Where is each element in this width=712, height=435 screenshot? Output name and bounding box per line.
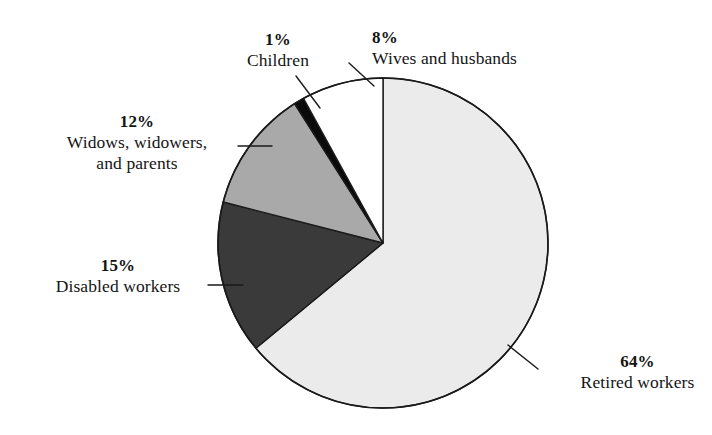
- slice-percent-children: 1%: [232, 30, 324, 50]
- slice-name-disabled: Disabled workers: [8, 276, 228, 297]
- slice-percent-widows: 12%: [18, 112, 256, 132]
- slice-label-children: 1% Children: [232, 30, 324, 71]
- slice-label-retired-workers: 64% Retired workers: [570, 352, 705, 393]
- slice-label-wives-and-husbands: 8% Wives and husbands: [372, 28, 517, 69]
- slice-name-widows-line2: and parents: [18, 153, 256, 174]
- slice-name-retired: Retired workers: [570, 372, 705, 393]
- slice-label-disabled-workers: 15% Disabled workers: [8, 256, 228, 297]
- slice-percent-retired: 64%: [570, 352, 705, 372]
- pie-chart-figure: 8% Wives and husbands 1% Children 12% Wi…: [0, 0, 712, 435]
- slice-name-wives: Wives and husbands: [372, 48, 517, 69]
- slice-label-widows-widowers-parents: 12% Widows, widowers, and parents: [18, 112, 256, 173]
- slice-percent-wives: 8%: [372, 28, 517, 48]
- leader-line-retired: [508, 345, 538, 369]
- pie-slice-group: [218, 78, 548, 408]
- slice-name-widows-line1: Widows, widowers,: [18, 132, 256, 153]
- slice-percent-disabled: 15%: [8, 256, 228, 276]
- slice-name-children: Children: [232, 50, 324, 71]
